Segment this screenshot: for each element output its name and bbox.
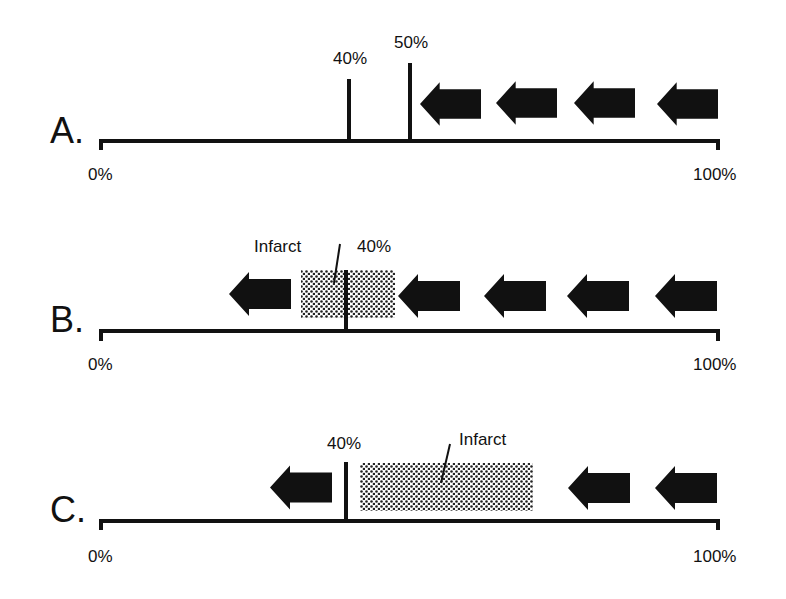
panel-label: A. — [50, 110, 84, 151]
arrow-left-icon — [567, 274, 629, 318]
arrow-left-icon — [655, 274, 717, 318]
axis-end-label: 100% — [693, 355, 736, 374]
arrow-left-icon — [568, 466, 630, 510]
arrow-left-icon — [655, 466, 717, 510]
axis-end-label: 100% — [693, 165, 736, 184]
axis-start-label: 0% — [88, 355, 113, 374]
infarct-label: Infarct — [254, 237, 302, 256]
axis-start-label: 0% — [88, 165, 113, 184]
arrow-left-icon — [229, 272, 291, 316]
diagram: A. 0% 100% 40% 50% B. 0% 100% 40% Infarc… — [0, 0, 786, 599]
arrow-left-icon — [398, 274, 460, 318]
marker-40-label: 40% — [333, 49, 367, 68]
panel-c: C. 0% 100% 40% Infarct — [50, 430, 736, 566]
marker-40-label: 40% — [327, 434, 361, 453]
marker-50-label: 50% — [394, 33, 428, 52]
axis-line — [101, 331, 718, 341]
axis-start-label: 0% — [88, 547, 113, 566]
infarct-label: Infarct — [459, 430, 507, 449]
axis-end-label: 100% — [693, 547, 736, 566]
arrow-left-icon — [657, 82, 718, 125]
arrow-left-icon — [484, 274, 546, 318]
panel-label: B. — [50, 299, 84, 340]
panel-b: B. 0% 100% 40% Infarct — [50, 237, 736, 374]
axis-line — [101, 521, 718, 530]
infarct-region — [360, 463, 533, 511]
axis-line — [101, 141, 718, 150]
arrow-left-icon — [420, 82, 481, 125]
panel-a: A. 0% 100% 40% 50% — [50, 33, 736, 184]
arrow-left-icon — [496, 81, 557, 124]
arrow-left-icon — [574, 81, 635, 124]
arrow-left-icon — [270, 466, 332, 510]
panel-label: C. — [50, 489, 86, 530]
marker-40-label: 40% — [357, 237, 391, 256]
